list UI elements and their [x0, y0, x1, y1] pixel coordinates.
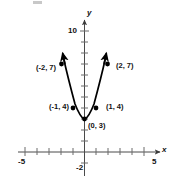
- point-label-neg1-4: (-1, 4): [49, 103, 69, 111]
- x-axis-label: x: [162, 146, 166, 154]
- y-axis: [80, 20, 89, 176]
- data-point-2-7: [105, 62, 110, 67]
- y-tick-label-neg2: -2: [76, 164, 83, 172]
- data-point-neg1-4: [71, 106, 76, 111]
- point-label-0-3: (0, 3): [88, 122, 106, 130]
- point-label-1-4: (1, 4): [106, 103, 124, 111]
- point-label-neg2-7: (-2, 7): [36, 64, 56, 72]
- parabola-graph-figure: (-2, 7) (2, 7) (-1, 4) (1, 4) (0, 3) y x…: [0, 0, 173, 184]
- x-axis: [18, 147, 160, 156]
- point-label-2-7: (2, 7): [116, 62, 134, 70]
- y-tick-label-10: 10: [68, 27, 77, 35]
- x-tick-label-neg5: -5: [18, 158, 25, 166]
- data-point-1-4: [94, 106, 99, 111]
- coordinate-plane-svg: [0, 0, 173, 184]
- x-tick-label-5: 5: [152, 158, 156, 166]
- data-point-0-3: [82, 117, 87, 122]
- y-axis-label: y: [87, 9, 91, 17]
- data-point-neg2-7: [59, 62, 64, 67]
